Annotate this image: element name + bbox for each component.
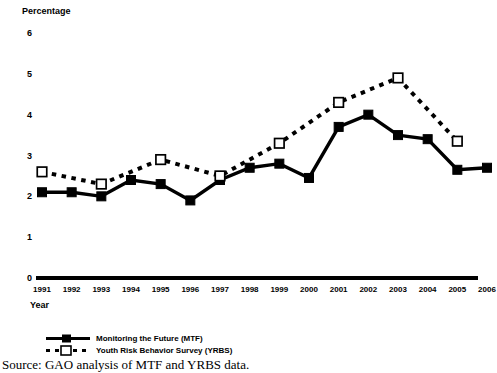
data-point-marker [334,122,343,131]
data-point-marker [245,163,254,172]
data-point-marker [38,188,47,197]
source-note: Source: GAO analysis of MTF and YRBS dat… [2,357,249,373]
x-axis-line [36,276,478,280]
series-line-mtf [42,115,487,201]
data-point-marker [305,173,314,182]
data-point-marker [334,98,344,108]
data-point-marker [364,110,373,119]
data-point-marker [453,165,462,174]
data-point-marker [67,188,76,197]
legend-swatch-mtf-solid-filled-square [46,333,90,344]
data-point-marker [275,159,284,168]
series-mtf [38,110,492,205]
chart-figure: Percentage Year 0123456 1991199219931994… [0,0,497,373]
data-point-marker [215,171,225,181]
data-point-marker [156,180,165,189]
data-point-marker [97,192,106,201]
data-point-marker [483,163,492,172]
data-point-marker [97,179,107,189]
data-point-marker [37,167,47,177]
plot-area [0,0,497,318]
data-point-marker [186,196,195,205]
legend-swatch-yrbs-dashed-open-square [46,345,90,356]
data-point-marker [127,176,136,185]
data-point-marker [423,135,432,144]
data-point-marker [156,155,166,165]
data-point-marker [393,73,403,83]
data-point-marker [275,139,285,149]
data-point-marker [394,131,403,140]
data-point-marker [453,136,463,146]
legend-label-mtf: Monitoring the Future (MTF) [96,334,203,343]
legend-label-yrbs: Youth Risk Behavior Survey (YRBS) [96,346,232,355]
